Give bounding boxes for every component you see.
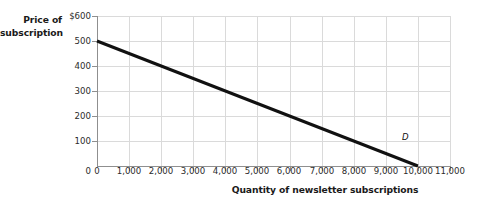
y-tick-label-600: $600 [55, 11, 91, 21]
y-axis-title-line2: subscription [0, 27, 62, 40]
y-axis-title: Price of subscription [0, 14, 62, 39]
y-axis-ticks [92, 17, 97, 142]
horizontal-gridlines [97, 17, 450, 142]
x-tick-label-11000: 11,000 [425, 166, 475, 176]
y-tick-label-400: 400 [55, 61, 91, 71]
x-axis-title: Quantity of newsletter subscriptions [180, 184, 470, 195]
y-tick-label-500: 500 [55, 36, 91, 46]
y-tick-label-200: 200 [55, 111, 91, 121]
y-tick-label-300: 300 [55, 86, 91, 96]
y-tick-label-100: 100 [55, 136, 91, 146]
demand-curve-figure: Price of subscription Quantity of newsle… [0, 0, 479, 206]
demand-curve-label: D [402, 132, 409, 142]
